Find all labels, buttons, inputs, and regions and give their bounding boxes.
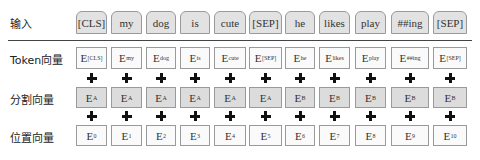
plus-icon <box>122 73 132 83</box>
input-token-box: likes <box>319 11 350 34</box>
plus-icon <box>87 111 97 121</box>
plus-icon <box>261 73 271 83</box>
input-token-box: [SEP] <box>433 11 467 34</box>
segment-embedding-box: EB <box>355 87 386 108</box>
plus-icon <box>190 111 200 121</box>
position-embedding-box: E1 <box>111 125 142 146</box>
plus-icon <box>122 111 132 121</box>
position-embedding-box: E4 <box>214 125 246 146</box>
plus-icon <box>225 111 235 121</box>
input-token-box: [CLS] <box>76 11 107 34</box>
segment-embedding-box: EA <box>180 87 210 108</box>
token-embedding-box: Eplay <box>355 47 386 69</box>
plus-icon <box>366 111 376 121</box>
segment-embedding-box: EA <box>76 87 107 108</box>
input-token-box: cute <box>214 11 246 34</box>
plus-icon <box>225 73 235 83</box>
position-embedding-box: E0 <box>76 125 107 146</box>
position-embedding-box: E8 <box>355 125 386 146</box>
position-embedding-box: E7 <box>319 125 350 146</box>
plus-icon <box>366 73 376 83</box>
input-token-box: dog <box>146 11 176 34</box>
plus-icon <box>405 73 415 83</box>
position-embedding-box: E6 <box>285 125 315 146</box>
position-embedding-box: E3 <box>180 125 210 146</box>
plus-icon <box>445 111 455 121</box>
input-token-box: my <box>111 11 142 34</box>
input-token-box: he <box>285 11 315 34</box>
plus-icon <box>445 73 455 83</box>
token-embedding-box: E[CLS] <box>76 47 107 69</box>
plus-icon <box>190 73 200 83</box>
input-token-box: play <box>355 11 386 34</box>
plus-icon <box>330 73 340 83</box>
divider-line <box>8 40 472 41</box>
input-token-box: ##ing <box>391 11 429 34</box>
plus-icon <box>405 111 415 121</box>
input-token-box: is <box>180 11 210 34</box>
row-label-input: 输入 <box>10 15 32 31</box>
token-embedding-box: Ecute <box>214 47 246 69</box>
segment-embedding-box: EA <box>111 87 142 108</box>
token-embedding-box: E[SEP] <box>249 47 282 69</box>
row-label-segment: 分割向量 <box>10 91 54 107</box>
token-embedding-box: Emy <box>111 47 142 69</box>
position-embedding-box: E9 <box>391 125 429 146</box>
segment-embedding-box: EA <box>146 87 176 108</box>
segment-embedding-box: EB <box>433 87 467 108</box>
segment-embedding-box: EB <box>285 87 315 108</box>
segment-embedding-box: EA <box>214 87 246 108</box>
plus-icon <box>261 111 271 121</box>
token-embedding-box: Elikes <box>319 47 350 69</box>
row-label-position: 位置向量 <box>10 129 54 145</box>
token-embedding-box: E##ing <box>391 47 429 69</box>
plus-icon <box>295 111 305 121</box>
token-embedding-box: Eis <box>180 47 210 69</box>
plus-icon <box>156 111 166 121</box>
segment-embedding-box: EA <box>249 87 282 108</box>
position-embedding-box: E2 <box>146 125 176 146</box>
plus-icon <box>330 111 340 121</box>
position-embedding-box: E5 <box>249 125 282 146</box>
segment-embedding-box: EB <box>391 87 429 108</box>
row-label-token: Token向量 <box>10 51 63 67</box>
token-embedding-box: E[SEP] <box>433 47 467 69</box>
token-embedding-box: Ehe <box>285 47 315 69</box>
segment-embedding-box: EB <box>319 87 350 108</box>
plus-icon <box>87 73 97 83</box>
plus-icon <box>295 73 305 83</box>
token-embedding-box: Edog <box>146 47 176 69</box>
input-token-box: [SEP] <box>249 11 282 34</box>
plus-icon <box>156 73 166 83</box>
position-embedding-box: E10 <box>433 125 467 146</box>
